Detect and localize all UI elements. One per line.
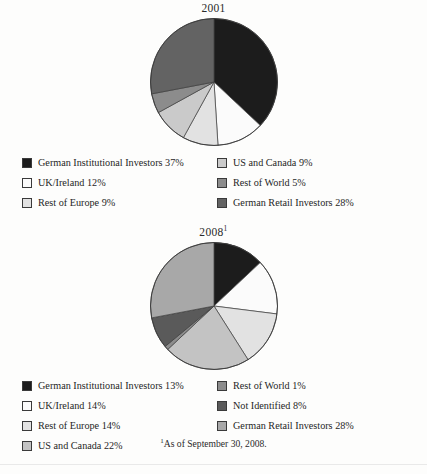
legend-swatch-icon [217,158,227,168]
legend-2001: German Institutional Investors 37% US an… [0,153,427,213]
chart-title-2008-text: 2008 [199,226,223,238]
legend-swatch-icon [22,401,32,411]
legend-item[interactable]: German Institutional Investors 37% [22,153,217,173]
legend-item[interactable]: German Retail Investors 28% [217,416,427,436]
pie-chart-2008-wrap [0,241,427,371]
chart-title-2001-text: 2001 [201,2,225,14]
pie-chart-2001-wrap [0,17,427,147]
footnote-text: As of September 30, 2008. [164,438,267,449]
legend-item-label: Not Identified 8% [233,401,307,411]
legend-swatch-icon [22,381,32,391]
cropped-text-artifact [0,466,427,474]
pie-slice[interactable] [150,242,214,317]
legend-swatch-icon [217,381,227,391]
legend-item[interactable]: Rest of World 5% [217,173,427,193]
page-divider [0,464,427,465]
legend-swatch-icon [217,178,227,188]
chart-title-2001: 2001 [0,0,427,17]
chart-title-2008-superscript: 1 [224,224,228,233]
figure-footnote: 1As of September 30, 2008. [0,438,427,449]
legend-item[interactable]: UK/Ireland 12% [22,173,217,193]
chart-block-2001: 2001 [0,0,427,147]
legend-item-label: Rest of World 5% [233,178,306,188]
legend-item[interactable]: German Institutional Investors 13% [22,376,217,396]
legend-item[interactable]: Rest of World 1% [217,376,427,396]
legend-item-label: German Institutional Investors 13% [38,381,184,391]
legend-swatch-icon [22,198,32,208]
legend-item[interactable]: Rest of Europe 14% [22,416,217,436]
pie-chart-2001 [149,17,279,147]
legend-swatch-icon [22,421,32,431]
legend-item-label: Rest of Europe 9% [38,198,115,208]
legend-item[interactable]: German Retail Investors 28% [217,193,427,213]
legend-item[interactable]: US and Canada 9% [217,153,427,173]
pie-chart-2008 [149,241,279,371]
chart-title-2008: 20081 [0,224,427,241]
legend-item-label: Rest of World 1% [233,381,306,391]
legend-item-label: US and Canada 9% [233,158,313,168]
legend-item-label: UK/Ireland 14% [38,401,106,411]
legend-item[interactable]: Not Identified 8% [217,396,427,416]
legend-item-label: German Institutional Investors 37% [38,158,184,168]
legend-swatch-icon [22,158,32,168]
legend-swatch-icon [217,421,227,431]
legend-swatch-icon [217,401,227,411]
legend-swatch-icon [22,178,32,188]
legend-item-label: UK/Ireland 12% [38,178,106,188]
legend-item[interactable]: Rest of Europe 9% [22,193,217,213]
legend-swatch-icon [217,198,227,208]
legend-item-label: German Retail Investors 28% [233,198,354,208]
legend-item-label: German Retail Investors 28% [233,421,354,431]
chart-block-2008: 20081 [0,224,427,371]
figure-page: 2001 German Institutional Investors 37% … [0,0,427,474]
legend-item-label: Rest of Europe 14% [38,421,120,431]
legend-item[interactable]: UK/Ireland 14% [22,396,217,416]
pie-slice[interactable] [150,18,214,93]
